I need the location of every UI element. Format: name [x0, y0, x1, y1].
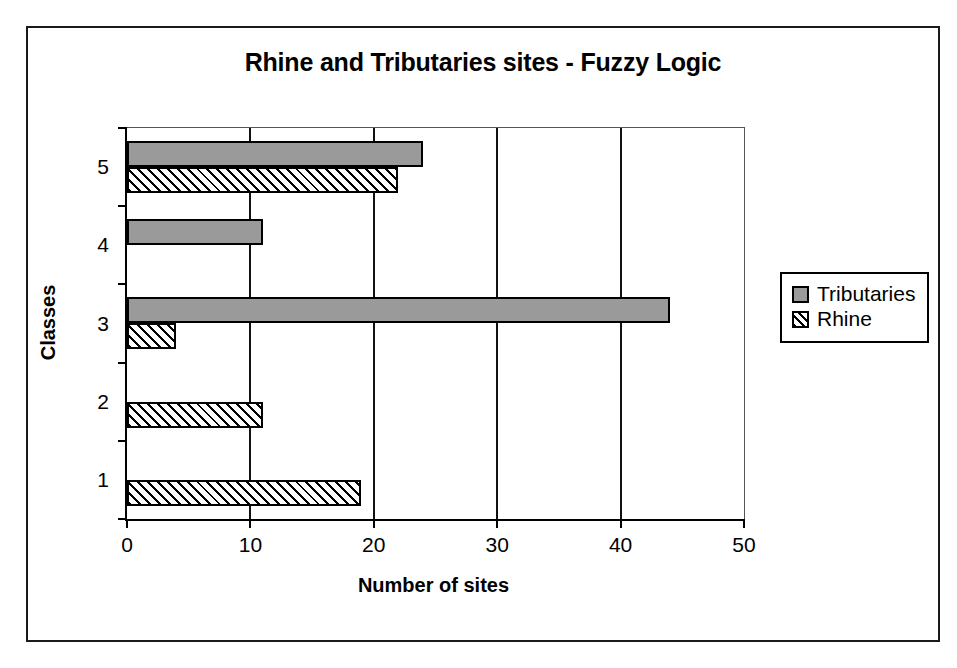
bar-tributaries-class-5[interactable] — [127, 141, 423, 167]
bar-group-class-5 — [127, 128, 744, 206]
x-tick-50 — [743, 519, 745, 528]
y-tick-class-1 — [118, 518, 127, 520]
y-axis-title: Classes — [36, 127, 62, 518]
y-tick-label-5: 5 — [97, 155, 109, 179]
bar-rhine-class-3[interactable] — [127, 323, 176, 349]
legend-label-rhine: Rhine — [817, 308, 872, 330]
y-tick-label-1: 1 — [97, 468, 109, 492]
legend-item-rhine[interactable]: Rhine — [792, 308, 915, 330]
legend-label-tributaries: Tributaries — [817, 283, 915, 305]
x-tick-30 — [496, 519, 498, 528]
y-tick-class-4 — [118, 283, 127, 285]
y-tick-label-4: 4 — [97, 233, 109, 257]
chart-legend: TributariesRhine — [780, 272, 929, 343]
x-tick-label-20: 20 — [362, 533, 385, 557]
x-tick-label-50: 50 — [732, 533, 755, 557]
bars-layer — [127, 128, 744, 519]
plot-area: 01020304050 12345 — [125, 127, 745, 521]
x-tick-40 — [620, 519, 622, 528]
bar-tributaries-class-4[interactable] — [127, 219, 263, 245]
y-tick-label-3: 3 — [97, 312, 109, 336]
bar-group-class-3 — [127, 284, 744, 362]
y-tick-class-3 — [118, 362, 127, 364]
y-tick-top — [118, 127, 127, 129]
y-axis-title-text: Classes — [38, 285, 61, 361]
x-tick-20 — [373, 519, 375, 528]
legend-swatch-tributaries-icon — [792, 286, 809, 303]
bar-rhine-class-2[interactable] — [127, 402, 263, 428]
x-tick-label-0: 0 — [121, 533, 133, 557]
bar-group-class-4 — [127, 206, 744, 284]
bar-tributaries-class-3[interactable] — [127, 297, 670, 323]
x-tick-label-40: 40 — [609, 533, 632, 557]
x-tick-0 — [126, 519, 128, 528]
bar-group-class-2 — [127, 363, 744, 441]
x-tick-label-30: 30 — [486, 533, 509, 557]
bar-group-class-1 — [127, 441, 744, 519]
chart-title: Rhine and Tributaries sites - Fuzzy Logi… — [28, 48, 938, 77]
y-tick-label-2: 2 — [97, 390, 109, 414]
figure-frame: Rhine and Tributaries sites - Fuzzy Logi… — [26, 26, 940, 642]
legend-swatch-rhine-icon — [792, 311, 809, 328]
bar-rhine-class-5[interactable] — [127, 167, 398, 193]
bar-rhine-class-1[interactable] — [127, 480, 361, 506]
y-tick-class-2 — [118, 440, 127, 442]
x-axis-title: Number of sites — [125, 574, 742, 597]
y-tick-class-5 — [118, 205, 127, 207]
legend-item-tributaries[interactable]: Tributaries — [792, 283, 915, 305]
x-tick-10 — [249, 519, 251, 528]
x-tick-label-10: 10 — [239, 533, 262, 557]
